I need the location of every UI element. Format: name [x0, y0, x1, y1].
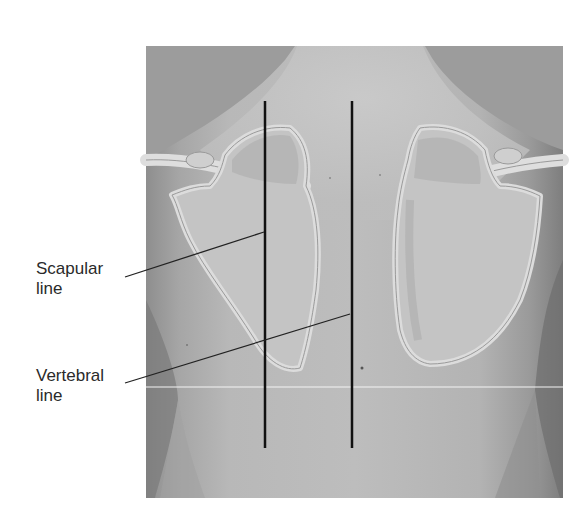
scapular-label: Scapular line	[36, 259, 103, 299]
right-acromion	[494, 148, 522, 164]
vertebral-label: Vertebral line	[36, 366, 104, 406]
left-acromion	[186, 152, 214, 168]
vertebral-label-line1: Vertebral	[36, 366, 104, 386]
anatomy-figure: Scapular line Vertebral line	[0, 0, 579, 525]
vertebral-label-line2: line	[36, 386, 104, 406]
scapular-label-line2: line	[36, 279, 103, 299]
scapular-label-line1: Scapular	[36, 259, 103, 279]
